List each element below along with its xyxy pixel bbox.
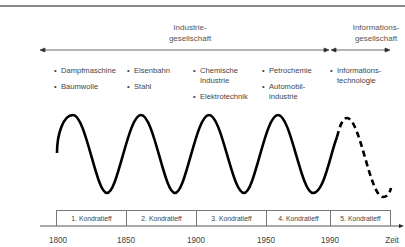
kondratieff-box-1: 1. Kondratieff	[56, 210, 127, 226]
list-item: •Informations-technologie	[330, 66, 404, 86]
kondratieff-box-3: 3. Kondratieff	[196, 210, 267, 226]
column-1: •Dampfmaschine •Baumwolle	[54, 66, 126, 98]
list-item: •ChemischeIndustrie	[193, 66, 261, 86]
year-label: 1990	[321, 236, 339, 245]
axis-label: Zeit	[385, 236, 399, 245]
column-2: •Eisenbahn •Stahl	[127, 66, 189, 98]
era-arrows	[40, 48, 390, 52]
list-item: •Petrochemie	[262, 66, 328, 76]
list-item: •Eisenbahn	[127, 66, 189, 76]
kondratieff-box-4: 4. Kondratieff	[266, 210, 331, 226]
arrow-left-icon	[331, 48, 336, 52]
year-label: 1950	[257, 236, 275, 245]
year-label: 1850	[117, 236, 135, 245]
year-label: 1800	[49, 236, 67, 245]
column-5: •Informations-technologie	[330, 66, 404, 92]
column-4: •Petrochemie •Automobil-industrie	[262, 66, 328, 108]
kondratieff-box-5: 5. Kondratieff	[330, 210, 391, 226]
list-item: •Elektrotechnik	[193, 92, 261, 102]
arrow-left-icon	[40, 48, 45, 52]
list-item: •Stahl	[127, 82, 189, 92]
list-item: •Dampfmaschine	[54, 66, 126, 76]
kondratieff-wave-dashed	[337, 118, 391, 197]
kondratieff-wave-solid	[57, 115, 337, 193]
list-item: •Automobil-industrie	[262, 82, 328, 102]
arrow-right-icon	[324, 48, 329, 52]
kondratieff-box-2: 2. Kondratieff	[126, 210, 197, 226]
list-item: •Baumwolle	[54, 82, 126, 92]
arrow-right-icon	[385, 48, 390, 52]
axis-arrow-icon	[399, 224, 404, 228]
column-3: •ChemischeIndustrie •Elektrotechnik	[193, 66, 261, 108]
year-label: 1900	[187, 236, 205, 245]
